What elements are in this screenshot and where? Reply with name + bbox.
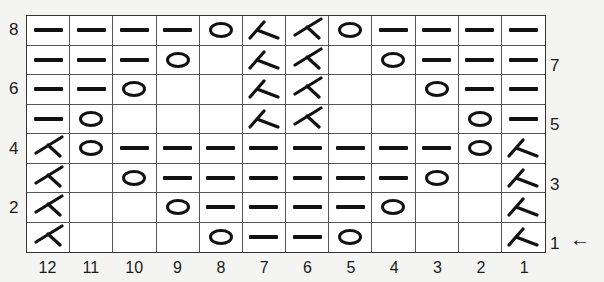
purl-dash-icon: [422, 58, 451, 62]
yarn-over-circle-icon: [338, 22, 362, 38]
yarn-over-circle-icon: [425, 170, 449, 186]
chart-cell-r4-c12: [27, 134, 70, 164]
column-label: 11: [69, 259, 112, 277]
row-label-right: 1: [550, 235, 559, 252]
purl-dash-icon: [509, 87, 538, 91]
row-label-left: 2: [9, 199, 18, 216]
column-label: 5: [329, 259, 372, 277]
chart-cell-r5-c4: [372, 105, 415, 135]
purl-dash-icon: [293, 205, 322, 209]
column-label: 9: [156, 259, 199, 277]
chart-cell-r2-c4: [372, 193, 415, 223]
chart-cell-r4-c8: [200, 134, 243, 164]
purl-dash-icon: [509, 117, 538, 121]
chart-cell-r6-c8: [200, 75, 243, 105]
chart-cell-r3-c1: [502, 164, 545, 194]
chart-cell-r1-c7: [243, 223, 286, 253]
row-label-right: 7: [550, 57, 559, 74]
column-label: 10: [113, 259, 156, 277]
chart-cell-r6-c10: [113, 75, 156, 105]
left-decrease-icon: [31, 164, 65, 192]
purl-dash-icon: [249, 205, 278, 209]
yarn-over-circle-icon: [209, 22, 233, 38]
purl-dash-icon: [293, 235, 322, 239]
chart-cell-r5-c7: [243, 105, 286, 135]
purl-dash-icon: [163, 28, 192, 32]
chart-cell-r4-c9: [157, 134, 200, 164]
chart-cell-r3-c12: [27, 164, 70, 194]
purl-dash-icon: [249, 235, 278, 239]
chart-cell-r2-c9: [157, 193, 200, 223]
chart-cell-r1-c9: [157, 223, 200, 253]
chart-cell-r5-c5: [329, 105, 372, 135]
chart-cell-r3-c9: [157, 164, 200, 194]
yarn-over-circle-icon: [468, 140, 492, 156]
column-label: 2: [459, 259, 502, 277]
purl-dash-icon: [249, 176, 278, 180]
chart-cell-r2-c12: [27, 193, 70, 223]
purl-dash-icon: [206, 146, 235, 150]
purl-dash-icon: [465, 87, 494, 91]
chart-cell-r4-c4: [372, 134, 415, 164]
chart-cell-r7-c8: [200, 46, 243, 76]
column-label: 3: [416, 259, 459, 277]
chart-cell-r7-c7: [243, 46, 286, 76]
chart-cell-r6-c7: [243, 75, 286, 105]
chart-cell-r4-c7: [243, 134, 286, 164]
chart-cell-r2-c3: [416, 193, 459, 223]
column-label: 8: [199, 259, 242, 277]
chart-cell-r8-c8: [200, 16, 243, 46]
chart-cell-r6-c9: [157, 75, 200, 105]
chart-cell-r6-c6: [286, 75, 329, 105]
chart-cell-r8-c4: [372, 16, 415, 46]
chart-cell-r6-c12: [27, 75, 70, 105]
chart-cell-r5-c9: [157, 105, 200, 135]
purl-dash-icon: [120, 146, 149, 150]
row-label-right: 5: [550, 116, 559, 133]
chart-cell-r8-c5: [329, 16, 372, 46]
chart-cell-r7-c9: [157, 46, 200, 76]
purl-dash-icon: [379, 146, 408, 150]
knitting-chart-grid: [26, 15, 546, 253]
column-label: 12: [26, 259, 69, 277]
yarn-over-circle-icon: [122, 81, 146, 97]
chart-cell-r1-c6: [286, 223, 329, 253]
chart-cell-r3-c8: [200, 164, 243, 194]
purl-dash-icon: [120, 28, 149, 32]
chart-cell-r6-c5: [329, 75, 372, 105]
row-label-left: 6: [9, 80, 18, 97]
chart-cell-r3-c5: [329, 164, 372, 194]
column-label: 4: [373, 259, 416, 277]
chart-cell-r4-c10: [113, 134, 156, 164]
right-decrease-icon: [247, 105, 281, 133]
purl-dash-icon: [249, 146, 278, 150]
right-decrease-icon: [247, 16, 281, 44]
left-decrease-icon: [31, 223, 65, 251]
chart-cell-r3-c3: [416, 164, 459, 194]
right-decrease-icon: [247, 46, 281, 74]
left-decrease-icon: [31, 193, 65, 221]
chart-cell-r1-c2: [459, 223, 502, 253]
yarn-over-circle-icon: [468, 111, 492, 127]
purl-dash-icon: [34, 58, 63, 62]
right-decrease-icon: [506, 164, 540, 192]
chart-cell-r3-c4: [372, 164, 415, 194]
left-decrease-icon: [31, 134, 65, 162]
chart-cell-r7-c6: [286, 46, 329, 76]
chart-cell-r5-c2: [459, 105, 502, 135]
purl-dash-icon: [336, 146, 365, 150]
left-decrease-icon: [290, 75, 324, 103]
yarn-over-circle-icon: [381, 52, 405, 68]
purl-dash-icon: [465, 58, 494, 62]
chart-cell-r4-c2: [459, 134, 502, 164]
chart-cell-r8-c1: [502, 16, 545, 46]
row-label-left: 4: [9, 140, 18, 157]
chart-cell-r1-c1: [502, 223, 545, 253]
chart-cell-r3-c10: [113, 164, 156, 194]
purl-dash-icon: [206, 176, 235, 180]
purl-dash-icon: [163, 176, 192, 180]
right-decrease-icon: [506, 134, 540, 162]
chart-cell-r8-c6: [286, 16, 329, 46]
purl-dash-icon: [293, 146, 322, 150]
chart-cell-r8-c9: [157, 16, 200, 46]
